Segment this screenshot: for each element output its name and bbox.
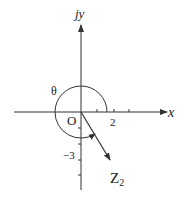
x-tick-label: 2 bbox=[110, 116, 116, 128]
complex-plane-diagram: jy x θ O 2 −3 Z2 bbox=[0, 0, 180, 197]
y-axis-label: jy bbox=[73, 6, 85, 21]
origin-label: O bbox=[67, 113, 76, 128]
z2-label-subscript: 2 bbox=[119, 177, 124, 188]
z2-label: Z2 bbox=[110, 170, 124, 188]
z2-vector bbox=[81, 112, 110, 160]
x-axis-label: x bbox=[167, 105, 175, 120]
angle-label: θ bbox=[51, 84, 57, 98]
y-tick-label: −3 bbox=[63, 149, 75, 161]
z2-label-main: Z bbox=[110, 170, 119, 186]
